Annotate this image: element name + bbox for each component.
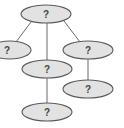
node-left: ? xyxy=(0,41,31,59)
node-label: ? xyxy=(43,9,49,20)
node-label: ? xyxy=(85,45,91,56)
node-right-child: ? xyxy=(63,80,113,98)
node-label: ? xyxy=(44,64,50,75)
node-root: ? xyxy=(21,5,71,23)
node-label: ? xyxy=(44,107,50,118)
edge-root-left xyxy=(16,22,31,42)
node-middle: ? xyxy=(22,60,72,78)
node-label: ? xyxy=(4,45,10,56)
tree-diagram: ? ? ? ? ? ? xyxy=(0,0,124,128)
edge-root-right xyxy=(64,21,80,42)
node-right: ? xyxy=(63,41,113,59)
node-label: ? xyxy=(85,84,91,95)
node-bottom: ? xyxy=(22,103,72,121)
